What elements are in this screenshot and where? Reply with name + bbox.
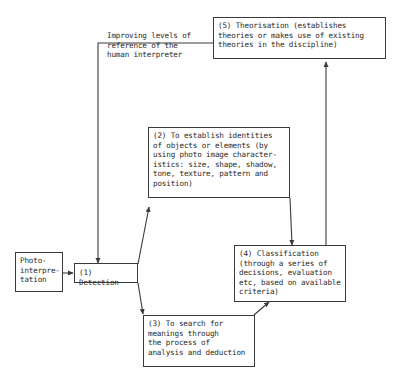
arrow-detection-to-search xyxy=(138,283,143,314)
node-detection: (1) Detection xyxy=(74,263,138,283)
feedback-label: Improving levels of reference of the hum… xyxy=(107,31,191,60)
node-photo-interpretation: Photo- interpre- tation xyxy=(15,252,63,292)
flow-diagram: Improving levels of reference of the hum… xyxy=(0,0,394,388)
node-classification: (4) Classification (through a series of … xyxy=(234,245,346,302)
node-theorisation: (5) Theorisation (establishes theories o… xyxy=(213,17,386,59)
arrow-identities-to-classification xyxy=(290,198,292,245)
arrow-detection-to-identities xyxy=(138,207,149,264)
node-search: (3) To search for meanings through the p… xyxy=(143,315,255,367)
arrow-search-to-classification xyxy=(254,302,269,315)
node-identities: (2) To establish identities of objects o… xyxy=(148,127,290,198)
